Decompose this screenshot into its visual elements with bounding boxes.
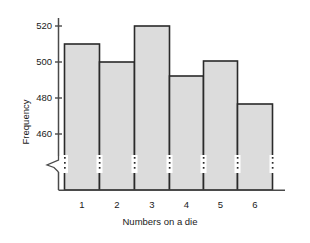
axis-break-icon (47, 156, 59, 172)
bar-4 (170, 76, 204, 190)
x-tick-label-1: 1 (79, 199, 84, 210)
x-tick-label-2: 2 (114, 199, 119, 210)
bar-3 (135, 26, 170, 190)
bar-6 (238, 104, 273, 190)
chart-svg: Frequency 520 500 480 460 (0, 0, 310, 243)
y-tick-label-460: 460 (36, 128, 52, 139)
y-tick-label-520: 520 (36, 20, 52, 31)
y-tick-label-480: 480 (36, 92, 52, 103)
y-axis-title: Frequency (20, 99, 31, 144)
bar-2 (100, 62, 135, 190)
x-tick-label-6: 6 (252, 199, 257, 210)
histogram-chart: Frequency 520 500 480 460 (0, 0, 310, 243)
x-tick-label-4: 4 (184, 199, 189, 210)
x-tick-label-5: 5 (218, 199, 223, 210)
bar-1 (65, 44, 100, 190)
x-tick-label-3: 3 (149, 199, 154, 210)
bar-5 (204, 61, 238, 190)
y-tick-label-500: 500 (36, 56, 52, 67)
x-axis-title: Numbers on a die (123, 216, 198, 227)
